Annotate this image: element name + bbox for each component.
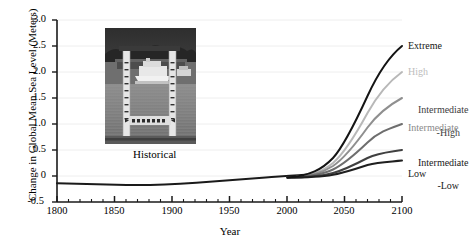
series-label-intermediate: Intermediate bbox=[408, 122, 459, 134]
series-label-intermediate-low-line1: Intermediate bbox=[418, 157, 469, 168]
series-label-intermediate-high: Intermediate -High bbox=[408, 92, 469, 150]
y-tick-label-3.0: 3.0 bbox=[16, 13, 46, 24]
x-tick-label-1850: 1850 bbox=[92, 205, 136, 216]
x-tick-label-1900: 1900 bbox=[150, 205, 194, 216]
series-label-intermediate-low-line2: -Low bbox=[418, 180, 475, 192]
series-line-extreme bbox=[288, 46, 403, 178]
y-tick-label-1.5: 1.5 bbox=[16, 91, 46, 102]
series-label-intermediate-high-line1: Intermediate bbox=[418, 104, 469, 115]
x-axis-title: Year bbox=[0, 225, 460, 237]
x-ticks bbox=[57, 196, 402, 202]
y-tick-label-2.5: 2.5 bbox=[16, 39, 46, 50]
x-tick-label-1800: 1800 bbox=[35, 205, 79, 216]
series-line-intermediate-high bbox=[288, 98, 403, 178]
series-line-intermediate-low bbox=[288, 150, 403, 178]
series-label-high: High bbox=[408, 66, 428, 78]
x-tick-label-2100: 2100 bbox=[380, 205, 424, 216]
historical-annotation: Historical bbox=[133, 148, 176, 160]
x-tick-label-2000: 2000 bbox=[265, 205, 309, 216]
series-label-low: Low bbox=[408, 168, 426, 180]
y-tick-label-0: 0 bbox=[16, 169, 46, 180]
y-tick-label-1.0: 1.0 bbox=[16, 117, 46, 128]
tide-gauge-photo bbox=[105, 28, 196, 144]
x-tick-label-2050: 2050 bbox=[322, 205, 366, 216]
y-tick-label-2.0: 2.0 bbox=[16, 65, 46, 76]
x-tick-label-1950: 1950 bbox=[207, 205, 251, 216]
series-label-extreme: Extreme bbox=[408, 40, 442, 52]
sea-level-rise-chart: Change in Global Mean Sea Level (Meters)… bbox=[0, 0, 475, 251]
y-tick-label-0.5: 0.5 bbox=[16, 143, 46, 154]
